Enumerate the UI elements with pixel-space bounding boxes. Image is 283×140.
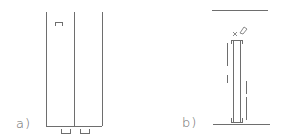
top-bracket-symbol <box>55 22 62 26</box>
pencil-icon <box>240 27 247 34</box>
bottom-bracket-symbol-1 <box>61 129 70 133</box>
panel-b-label: b) <box>182 115 197 130</box>
panel-a-drawing <box>46 12 102 133</box>
panel-b-drawing <box>212 10 270 124</box>
panel-a-label: a) <box>16 116 31 131</box>
diagram-canvas <box>0 0 283 140</box>
bottom-bracket-symbol-2 <box>80 129 89 133</box>
